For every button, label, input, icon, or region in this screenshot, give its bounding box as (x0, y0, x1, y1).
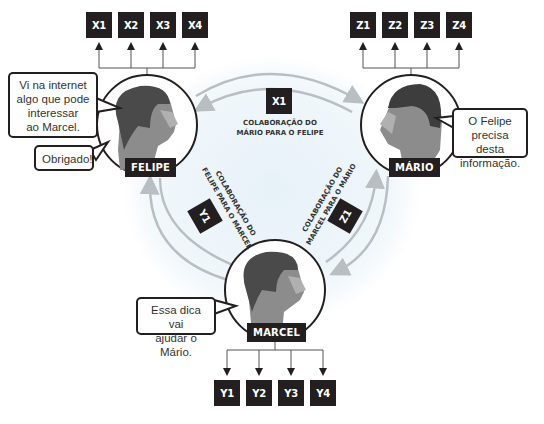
output-box-x1: X1 (86, 12, 112, 38)
name-tag-felipe: FELIPE (125, 158, 176, 177)
felipe-output-tree (99, 46, 195, 78)
speech-bubble-felipe: Vi na internet algo que pode interessar … (8, 72, 98, 138)
name-tag-mario: MÁRIO (389, 158, 440, 177)
speech-line: informação. (460, 156, 520, 170)
speech-line: interessar (16, 106, 90, 120)
output-box-z1: Z1 (350, 12, 376, 38)
speech-line: Essa dica vai (144, 303, 208, 331)
output-box-z2: Z2 (382, 12, 408, 38)
output-box-y4: Y4 (310, 380, 336, 406)
output-box-y1: Y1 (214, 380, 240, 406)
marcel-output-tree (227, 340, 323, 372)
output-box-y2: Y2 (246, 380, 272, 406)
collab-label-mario-to-felipe: COLABORAÇÃO DO MÁRIO PARA O FELIPE (222, 118, 338, 138)
speech-line: ao Marcel. (16, 120, 90, 134)
output-box-z3: Z3 (414, 12, 440, 38)
diagram-graphics (0, 0, 544, 424)
collab-label-line: MÁRIO PARA O FELIPE (222, 128, 338, 138)
speech-line: O Felipe (460, 114, 520, 128)
output-box-x3: X3 (150, 12, 176, 38)
speech-bubble-mario: O Felipe precisa desta informação. (452, 108, 528, 158)
output-box-x2: X2 (118, 12, 144, 38)
output-box-x4: X4 (182, 12, 208, 38)
speech-bubble-felipe-reply: Obrigado! (34, 145, 94, 171)
speech-bubble-marcel: Essa dica vai ajudar o Mário. (136, 297, 216, 335)
speech-line: ajudar o Mário. (144, 331, 208, 359)
output-box-y3: Y3 (278, 380, 304, 406)
collab-label-line: COLABORAÇÃO DO (222, 118, 338, 128)
name-tag-marcel: MARCEL (247, 323, 306, 342)
collab-token-x1: X1 (266, 88, 292, 114)
speech-line: precisa desta (460, 128, 520, 156)
speech-line: Vi na internet (16, 78, 90, 92)
output-box-z4: Z4 (446, 12, 472, 38)
mario-output-tree (363, 46, 459, 78)
collaboration-diagram: X1 X2 X3 X4 Z1 Z2 Z3 Z4 Y1 Y2 Y3 Y4 FELI… (0, 0, 544, 424)
speech-line: algo que pode (16, 92, 90, 106)
